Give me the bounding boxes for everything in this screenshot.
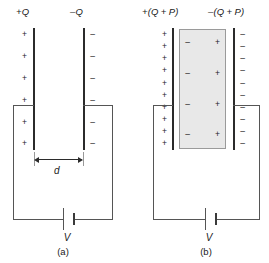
charge-sign-negative: – bbox=[90, 96, 95, 105]
charge-sign-negative: – bbox=[90, 118, 95, 127]
bound-charge-positive: + bbox=[215, 130, 220, 139]
charge-sign-negative: – bbox=[90, 74, 95, 83]
charge-sign-negative: – bbox=[90, 30, 95, 39]
bound-charge-negative: – bbox=[185, 130, 190, 139]
dielectric-bound-negative-charges: –––– bbox=[182, 38, 193, 139]
charge-sign-positive: + bbox=[22, 96, 27, 105]
panel-a-left-plate-label: +Q bbox=[16, 6, 29, 17]
charge-sign-negative: – bbox=[240, 30, 245, 39]
charge-sign-negative: – bbox=[240, 127, 245, 136]
panel-b-caption: (b) bbox=[186, 246, 226, 257]
panel-a-bottom-right-wire bbox=[73, 219, 113, 220]
panel-b-negative-plate bbox=[233, 28, 235, 150]
charge-sign-positive: + bbox=[162, 54, 167, 63]
panel-a-left-wire bbox=[13, 105, 14, 220]
dielectric-bound-positive-charges: ++++ bbox=[212, 38, 223, 139]
panel-b-left-wire bbox=[153, 105, 154, 220]
charge-sign-negative: – bbox=[240, 79, 245, 88]
panel-a-voltage-label: V bbox=[55, 232, 79, 243]
panel-b: +(Q + P) –(Q + P) ++++++++++ –––––––––– … bbox=[134, 0, 269, 263]
panel-a-positive-charges: ++++++ bbox=[19, 30, 30, 148]
charge-sign-negative: – bbox=[240, 54, 245, 63]
charge-sign-positive: + bbox=[22, 52, 27, 61]
panel-a-separation-label: d bbox=[54, 165, 60, 176]
charge-sign-positive: + bbox=[22, 118, 27, 127]
panel-b-left-plate-lead bbox=[153, 105, 173, 106]
charge-sign-positive: + bbox=[162, 115, 167, 124]
charge-sign-positive: + bbox=[162, 139, 167, 148]
bound-charge-negative: – bbox=[185, 100, 190, 109]
panel-b-bottom-right-wire bbox=[215, 219, 260, 220]
charge-sign-positive: + bbox=[22, 139, 27, 148]
panel-a-battery-long-plate bbox=[63, 208, 64, 230]
panel-b-battery-short-plate bbox=[215, 213, 217, 225]
charge-sign-positive: + bbox=[162, 30, 167, 39]
charge-sign-positive: + bbox=[22, 74, 27, 83]
charge-sign-negative: – bbox=[240, 115, 245, 124]
bound-charge-positive: + bbox=[215, 69, 220, 78]
panel-a-right-wire bbox=[112, 105, 113, 220]
bound-charge-negative: – bbox=[185, 38, 190, 47]
charge-sign-negative: – bbox=[240, 42, 245, 51]
panel-a-negative-charges: –––––– bbox=[87, 30, 98, 148]
bound-charge-positive: + bbox=[215, 100, 220, 109]
panel-a-separation-line bbox=[36, 159, 82, 160]
panel-b-negative-charges: –––––––––– bbox=[237, 30, 248, 148]
panel-b-right-plate-lead bbox=[233, 105, 260, 106]
bound-charge-positive: + bbox=[215, 38, 220, 47]
panel-b-right-wire bbox=[259, 105, 260, 220]
panel-a: +Q –Q ++++++ –––––– V d (a) bbox=[0, 0, 134, 263]
charge-sign-negative: – bbox=[90, 52, 95, 61]
panel-a-negative-plate bbox=[83, 28, 85, 150]
panel-a-right-plate-lead bbox=[83, 105, 113, 106]
panel-a-left-plate-lead bbox=[13, 105, 34, 106]
panel-b-voltage-label: V bbox=[197, 232, 221, 243]
charge-sign-negative: – bbox=[240, 139, 245, 148]
capacitor-dielectric-figure: +Q –Q ++++++ –––––– V d (a) +(Q + P) –(Q… bbox=[0, 0, 269, 263]
panel-a-arrow-right-icon bbox=[78, 157, 83, 163]
panel-b-positive-charges: ++++++++++ bbox=[159, 30, 170, 148]
panel-a-positive-plate bbox=[33, 28, 35, 150]
charge-sign-negative: – bbox=[90, 139, 95, 148]
panel-b-positive-plate bbox=[172, 28, 174, 150]
bound-charge-negative: – bbox=[185, 69, 190, 78]
panel-a-battery-short-plate bbox=[73, 213, 75, 225]
panel-a-caption: (a) bbox=[43, 246, 83, 257]
charge-sign-positive: + bbox=[162, 79, 167, 88]
charge-sign-positive: + bbox=[162, 91, 167, 100]
charge-sign-negative: – bbox=[240, 66, 245, 75]
panel-b-bottom-left-wire bbox=[153, 219, 205, 220]
charge-sign-positive: + bbox=[162, 127, 167, 136]
panel-b-battery-long-plate bbox=[205, 208, 206, 230]
panel-a-right-plate-label: –Q bbox=[70, 6, 83, 17]
charge-sign-positive: + bbox=[22, 30, 27, 39]
charge-sign-negative: – bbox=[240, 91, 245, 100]
charge-sign-positive: + bbox=[162, 42, 167, 51]
panel-a-bottom-left-wire bbox=[13, 219, 63, 220]
panel-a-dim-tick-right bbox=[83, 152, 84, 166]
panel-a-arrow-left-icon bbox=[34, 157, 39, 163]
charge-sign-positive: + bbox=[162, 66, 167, 75]
panel-b-right-plate-label: –(Q + P) bbox=[208, 6, 244, 17]
panel-b-left-plate-label: +(Q + P) bbox=[142, 6, 179, 17]
